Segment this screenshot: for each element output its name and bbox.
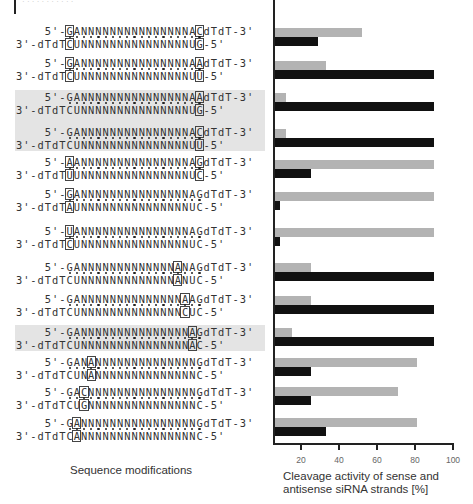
sense-activity-bar [275,228,434,237]
sense-activity-bar [275,192,434,201]
sense-activity-bar [275,93,286,102]
value-axis-label: Cleavage activity of sense and antisense… [283,470,439,496]
bar-chart: 20406080100 [0,0,473,504]
antisense-activity-bar [275,272,434,281]
x-tick [452,443,454,450]
x-tick-label: 20 [296,455,305,465]
antisense-activity-bar [275,201,280,210]
antisense-activity-bar [275,427,326,436]
x-tick [300,443,302,450]
x-tick [414,443,416,450]
x-tick-label: 60 [372,455,381,465]
value-axis-label-line2: antisense siRNA strands [%] [283,483,439,496]
antisense-activity-bar [275,138,434,147]
antisense-activity-bar [275,337,434,346]
sense-activity-bar [275,129,286,138]
sense-activity-bar [275,387,398,396]
sequence-axis-label: Sequence modifications [70,464,192,476]
x-tick-label: 100 [446,455,460,465]
antisense-activity-bar [275,37,318,46]
sense-activity-bar [275,358,417,367]
antisense-activity-bar [275,237,280,246]
antisense-activity-bar [275,367,311,376]
sense-activity-bar [275,296,311,305]
sense-activity-bar [275,160,434,169]
antisense-activity-bar [275,396,311,405]
x-tick-label: 40 [334,455,343,465]
value-axis-label-line1: Cleavage activity of sense and [283,470,439,483]
x-tick [376,443,378,450]
sense-activity-bar [275,28,362,37]
antisense-activity-bar [275,102,434,111]
antisense-activity-bar [275,169,311,178]
sense-activity-bar [275,61,326,70]
antisense-activity-bar [275,70,434,79]
sense-activity-bar [275,263,311,272]
sense-activity-bar [275,328,292,337]
x-tick-label: 80 [410,455,419,465]
sense-activity-bar [275,418,417,427]
x-tick [338,443,340,450]
antisense-activity-bar [275,305,434,314]
